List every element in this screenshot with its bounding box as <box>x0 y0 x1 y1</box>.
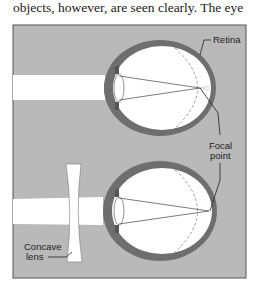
myopia-correction-diagram: Retina Focal point Concave lens <box>0 0 256 291</box>
eyeball-interior <box>113 46 211 130</box>
retina-label: Retina <box>213 34 241 45</box>
concave-lens-label-line2: lens <box>26 251 44 262</box>
light-beam <box>13 75 105 100</box>
eyeball-interior <box>112 168 212 254</box>
iris-bottom <box>115 225 119 233</box>
iris-bottom <box>115 102 119 110</box>
iris-top <box>115 66 119 74</box>
iris-top <box>115 189 119 197</box>
light-beam <box>13 197 103 225</box>
focal-point-label-line2: point <box>210 150 231 161</box>
